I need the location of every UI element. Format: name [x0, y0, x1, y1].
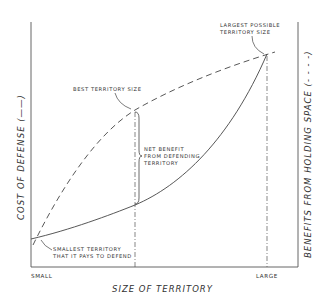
- largest-label-line1: LARGEST POSSIBLE: [220, 22, 280, 28]
- smallest-label-line1: SMALLEST TERRITORY: [53, 246, 121, 252]
- territory-diagram: LARGEST POSSIBLE TERRITORY SIZE BEST TER…: [0, 0, 325, 304]
- smallest-label-line2: THAT IT PAYS TO DEFEND: [52, 253, 132, 259]
- best-label: BEST TERRITORY SIZE: [73, 86, 142, 92]
- net-label-line2: FROM DEFENDING: [144, 153, 200, 159]
- smallest-leader: [41, 240, 52, 250]
- largest-leader: [252, 36, 264, 54]
- net-label-line1: NET BENEFIT: [144, 146, 184, 152]
- x-tick-small: SMALL: [31, 273, 53, 279]
- left-axis-label: COST OF DEFENSE (——): [16, 94, 26, 220]
- net-label-line3: TERRITORY: [143, 160, 179, 166]
- right-axis-label: BENEFITS FROM HOLDING SPACE (- - - -): [303, 50, 313, 258]
- best-leader: [115, 93, 131, 109]
- x-tick-large: LARGE: [256, 273, 278, 279]
- x-axis-label: SIZE OF TERRITORY: [112, 284, 213, 294]
- largest-label-line2: TERRITORY SIZE: [219, 29, 271, 35]
- net-benefit-brace: [135, 112, 142, 204]
